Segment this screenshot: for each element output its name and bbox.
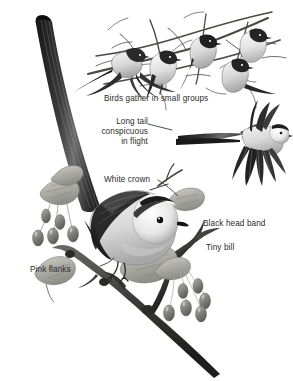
illustration-plate	[0, 0, 293, 381]
label-birds-gather: Birds gather in small groups	[104, 94, 208, 104]
label-long-tail-line3: in flight	[121, 137, 148, 146]
label-white-crown: White crown	[104, 175, 150, 185]
label-tiny-bill: Tiny bill	[206, 243, 234, 253]
label-long-tail-line1: Long tail	[116, 117, 148, 126]
label-long-tail-conspicuous: Long tail conspicuous in flight	[86, 117, 148, 147]
label-long-tail-line2: conspicuous	[101, 127, 148, 136]
label-black-head-band: Black head band	[203, 219, 266, 229]
label-pink-flanks: Pink flanks	[30, 265, 71, 275]
